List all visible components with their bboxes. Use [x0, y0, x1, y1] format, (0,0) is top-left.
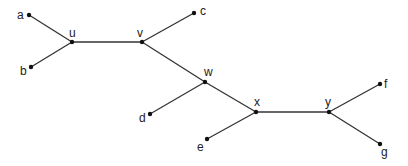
node-y	[327, 110, 331, 114]
node-label-a: a	[17, 8, 24, 22]
labels-group: abuvcwdxeyfg	[17, 4, 388, 159]
edge-x-e	[207, 112, 256, 139]
node-label-e: e	[197, 140, 204, 154]
node-label-y: y	[325, 95, 331, 109]
edge-w-d	[150, 82, 205, 114]
node-f	[378, 82, 382, 86]
node-label-c: c	[200, 4, 206, 18]
node-a	[27, 13, 31, 17]
node-label-b: b	[20, 64, 27, 78]
edge-b-u	[31, 42, 72, 67]
node-label-v: v	[137, 26, 143, 40]
node-label-w: w	[203, 65, 213, 79]
node-label-d: d	[139, 111, 146, 125]
edge-w-x	[205, 82, 256, 112]
node-label-x: x	[254, 95, 260, 109]
node-label-f: f	[384, 77, 388, 91]
node-w	[203, 80, 207, 84]
node-b	[29, 65, 33, 69]
node-label-g: g	[381, 145, 388, 159]
node-label-u: u	[69, 26, 76, 40]
edge-y-g	[329, 112, 380, 144]
tree-diagram: abuvcwdxeyfg	[0, 0, 408, 166]
node-d	[148, 112, 152, 116]
node-x	[254, 110, 258, 114]
edge-v-w	[142, 42, 205, 82]
node-c	[192, 11, 196, 15]
node-v	[140, 40, 144, 44]
edge-a-u	[29, 15, 72, 42]
edge-v-c	[142, 13, 194, 42]
edge-y-f	[329, 84, 380, 112]
node-u	[70, 40, 74, 44]
node-e	[205, 137, 209, 141]
